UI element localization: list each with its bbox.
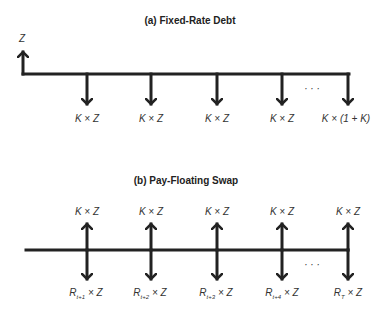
receive-label-4: K × Z [270, 206, 295, 217]
panel-b-title: (b) Pay-Floating Swap [134, 175, 238, 186]
receive-label-2: K × Z [139, 206, 164, 217]
panel-a-title: (a) Fixed-Rate Debt [144, 15, 236, 26]
pay-label-5: RT × Z [334, 287, 363, 300]
pay-label-1: Rt+1 × Z [69, 287, 103, 300]
receive-label-1: K × Z [75, 206, 100, 217]
ellipsis-a: · · · [304, 83, 320, 94]
pay-label-2: Rt+2 × Z [133, 287, 167, 300]
ellipsis-b: · · · [304, 259, 320, 270]
outflow-label-3: K × Z [205, 113, 230, 124]
panel-pay-floating-swap: (b) Pay-Floating Swap K × Z K × Z K × Z … [26, 175, 363, 300]
panel-fixed-rate-debt: (a) Fixed-Rate Debt Z · · · K × Z K × Z … [18, 15, 370, 124]
inflow-label: Z [18, 33, 26, 44]
receive-label-5: K × Z [336, 206, 361, 217]
outflow-label-1: K × Z [75, 113, 100, 124]
outflow-label-2: K × Z [139, 113, 164, 124]
pay-label-3: Rt+3 × Z [199, 287, 233, 300]
outflow-label-4: K × Z [270, 113, 295, 124]
pay-label-4: Rt+4 × Z [265, 287, 299, 300]
outflow-label-5: K × (1 + K) [322, 113, 370, 124]
receive-label-3: K × Z [205, 206, 230, 217]
cash-flow-diagram: (a) Fixed-Rate Debt Z · · · K × Z K × Z … [0, 0, 381, 309]
